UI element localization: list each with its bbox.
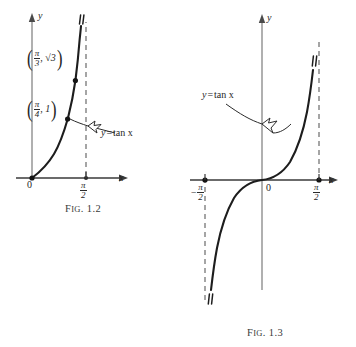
curve-break-mark-bottom xyxy=(208,294,212,304)
equation-rhs: tan x xyxy=(113,127,133,138)
curve-equation-label: y=tan x xyxy=(202,89,234,100)
fraction-numerator: π xyxy=(80,181,87,190)
paren-close: ) xyxy=(57,47,63,70)
callout-arrow xyxy=(226,104,291,133)
curve-equation-label: y=tan x xyxy=(101,127,133,138)
y-axis xyxy=(259,14,265,290)
caption-smallcaps: IG xyxy=(71,204,81,214)
caption-smallcaps: IG xyxy=(253,328,263,338)
curve-break-mark xyxy=(80,15,84,24)
figure-1-3-plot xyxy=(170,0,356,320)
point-value-sqrt3: √3 xyxy=(45,52,56,63)
fraction-denominator: 2 xyxy=(80,190,87,200)
point-value-one: 1 xyxy=(45,103,50,114)
fraction-pi-over-2: π 2 xyxy=(80,181,87,200)
paren-open: ( xyxy=(27,98,33,121)
equation-equals: = xyxy=(206,89,214,100)
y-axis-label: y xyxy=(38,10,42,21)
comma-separator: , xyxy=(40,103,43,114)
equation-rhs: tan x xyxy=(214,89,234,100)
x-tick-label-pi-over-2: π 2 xyxy=(80,181,87,200)
fraction-numerator: π xyxy=(197,183,204,192)
point-marker-pi-3 xyxy=(73,78,78,83)
equation-equals: = xyxy=(105,127,113,138)
paren-close: ) xyxy=(51,98,57,121)
figure-1-2-caption: FIG. 1.2 xyxy=(0,203,172,214)
fraction-denominator: 2 xyxy=(197,192,204,202)
figure-1-3: y x 0 −π2 π 2 y=tan x FIG. 1.3 xyxy=(170,0,356,347)
x-axis-label: x xyxy=(329,174,333,185)
paren-open: ( xyxy=(27,47,33,70)
x-tick-label-positive-pi-over-2: π 2 xyxy=(313,183,320,202)
figure-1-3-caption: FIG. 1.3 xyxy=(172,327,356,338)
caption-suffix: . 1.3 xyxy=(263,327,283,338)
point-marker-pi-4 xyxy=(65,116,70,121)
x-tick-label-negative-pi-over-2: −π2 xyxy=(191,183,204,202)
fraction-pi-over-2: π 2 xyxy=(313,183,320,202)
comma-separator: , xyxy=(40,52,43,63)
point-label-pi-3: (π3, √3) xyxy=(26,47,63,70)
curve-break-mark-top xyxy=(312,56,316,66)
fraction-denominator: 2 xyxy=(313,192,320,202)
fraction-numerator: π xyxy=(313,183,320,192)
caption-suffix: . 1.2 xyxy=(81,203,101,214)
origin-label: 0 xyxy=(266,182,271,193)
fraction-pi-over-2: π2 xyxy=(197,183,204,202)
origin-label: 0 xyxy=(27,179,32,190)
y-axis-label: y xyxy=(267,12,271,23)
y-axis xyxy=(29,13,35,178)
x-axis-label: x xyxy=(119,172,123,183)
point-label-pi-4: (π4, 1) xyxy=(26,98,58,121)
figure-1-2: y x 0 π 2 (π3, √3) (π4, 1) y=tan x FIG. … xyxy=(0,0,178,230)
